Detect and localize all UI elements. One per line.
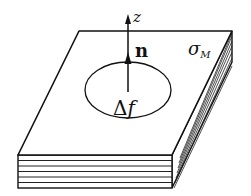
- z-arrowhead-icon: [125, 14, 131, 24]
- surface-charge-label: σM: [188, 40, 211, 60]
- slab-diagram: z n σM Δf: [0, 0, 251, 196]
- delta-symbol: Δ: [113, 96, 127, 120]
- area-variable: f: [127, 96, 134, 120]
- sigma-symbol: σ: [188, 38, 200, 59]
- sigma-subscript: M: [200, 49, 210, 60]
- front-face-layers: [18, 155, 172, 188]
- normal-vector-label: n: [135, 42, 148, 60]
- z-axis-label: z: [133, 10, 141, 25]
- area-element-label: Δf: [113, 98, 135, 118]
